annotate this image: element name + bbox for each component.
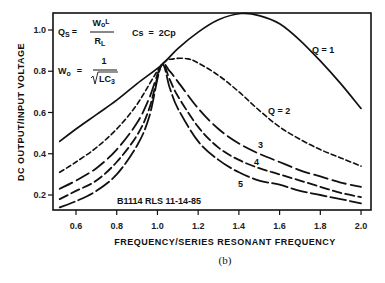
formula-cs: Cs = 2Cp: [132, 28, 176, 38]
svg-text:QS=: QS=: [58, 27, 77, 38]
x-tick-label: 1.2: [192, 221, 205, 231]
x-tick-label: 0.8: [110, 221, 123, 231]
svg-text:WoL: WoL: [92, 18, 110, 28]
svg-text:RL: RL: [95, 36, 107, 47]
x-tick-label: 1.8: [314, 221, 327, 231]
y-tick-label: 0.8: [33, 66, 46, 76]
curve-label-q4: 4: [254, 157, 259, 167]
formula-qs: QS= WoL RL: [58, 18, 114, 47]
x-tick-label: 2.0: [355, 221, 368, 231]
y-axis-ticks: 0.20.40.60.81.0: [33, 25, 53, 200]
y-tick-label: 0.2: [33, 190, 46, 200]
chart: 0.60.81.01.21.41.61.82.0 0.20.40.60.81.0…: [0, 0, 385, 283]
x-axis-ticks: 0.60.81.01.21.41.61.82.0: [70, 210, 368, 231]
x-tick-label: 0.6: [70, 221, 83, 231]
curve-q-4: [60, 64, 361, 199]
x-axis-title: FREQUENCY/SERIES RESONANT FREQUENCY: [114, 237, 336, 247]
y-tick-label: 0.4: [33, 149, 46, 159]
x-tick-label: 1.4: [233, 221, 246, 231]
y-tick-label: 1.0: [33, 25, 46, 35]
svg-text:1: 1: [101, 56, 106, 66]
formula-wo: Wo= 1 LC3: [58, 56, 118, 85]
x-tick-label: 1.0: [151, 221, 164, 231]
curve-label-q1: Q = 1: [312, 45, 334, 55]
drawing-id: B1114 RLS 11-14-85: [117, 196, 201, 206]
figure-caption: (b): [219, 254, 232, 267]
curve-label-q2: Q = 2: [268, 106, 290, 116]
y-axis-title: DC OUTPUT/INPUT VOLTAGE: [16, 43, 26, 181]
y-tick-label: 0.6: [33, 108, 46, 118]
x-tick-label: 1.6: [273, 221, 286, 231]
svg-text:Wo=: Wo=: [58, 66, 82, 77]
curve-label-q5: 5: [238, 179, 243, 189]
curve-label-q3: 3: [258, 140, 263, 150]
svg-text:LC3: LC3: [99, 74, 115, 85]
